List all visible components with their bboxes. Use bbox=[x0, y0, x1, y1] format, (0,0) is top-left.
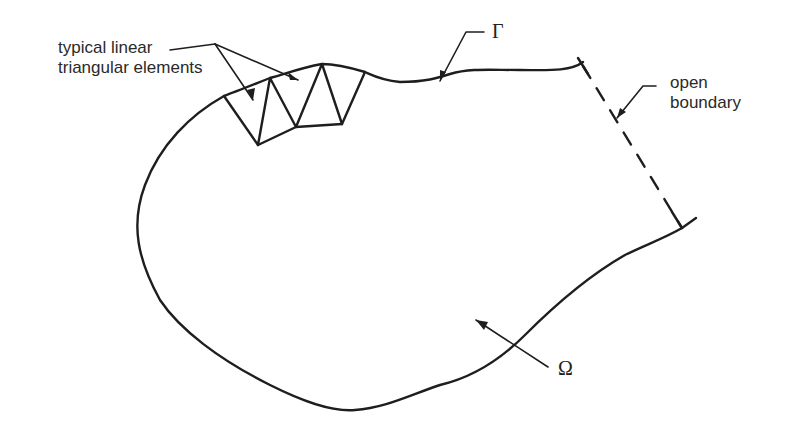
open-boundary-label-line1: open bbox=[670, 73, 708, 93]
open-boundary-tick-bottom bbox=[672, 212, 682, 228]
gamma-symbol: Γ bbox=[492, 20, 504, 43]
element-edges bbox=[224, 64, 365, 145]
omega-leader bbox=[476, 320, 548, 367]
triangular-elements bbox=[224, 64, 365, 145]
gamma-leader bbox=[440, 32, 484, 81]
open-boundary-label-line2: boundary bbox=[670, 93, 741, 113]
arrowhead-icon bbox=[476, 320, 488, 330]
open-boundary-leader bbox=[617, 86, 656, 118]
open-boundary-tick-top bbox=[578, 58, 588, 74]
diagram-canvas: typical linear triangular elements open … bbox=[0, 0, 795, 421]
omega-symbol: Ω bbox=[558, 357, 573, 380]
element-base bbox=[258, 124, 342, 145]
elements-label-line2: triangular elements bbox=[58, 58, 203, 78]
elements-label-line1: typical linear bbox=[58, 38, 153, 58]
open-boundary-dashed bbox=[583, 66, 682, 228]
